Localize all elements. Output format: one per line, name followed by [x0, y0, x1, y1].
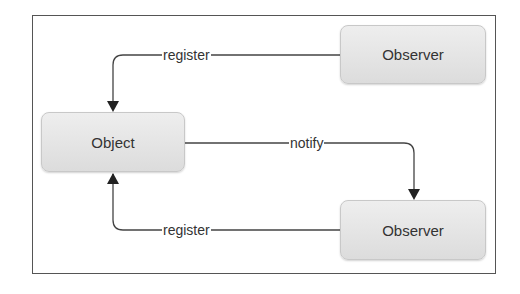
edge-label-register-bottom: register [162, 222, 211, 238]
node-observer-bottom: Observer [340, 200, 486, 260]
node-label: Object [91, 134, 134, 151]
node-object: Object [41, 112, 185, 172]
arrowhead-down-icon [107, 101, 119, 112]
edge-register-bottom [113, 174, 340, 230]
node-label: Observer [382, 222, 444, 239]
node-observer-top: Observer [340, 25, 486, 84]
edge-label-register-top: register [162, 47, 211, 63]
arrowhead-down-icon [408, 189, 420, 200]
arrowhead-up-icon [107, 173, 119, 184]
edge-notify [185, 143, 414, 198]
edge-label-notify: notify [289, 135, 324, 151]
edge-register-top [113, 55, 340, 110]
node-label: Observer [382, 46, 444, 63]
